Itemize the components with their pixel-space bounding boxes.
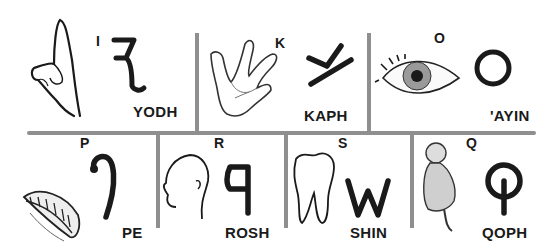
qoph-glyph-icon: [482, 161, 532, 221]
hand-pointing-icon: [28, 16, 88, 116]
letter-cell-yodh: I YODH: [0, 0, 195, 131]
tooth-icon: [290, 151, 340, 231]
letter-name: QOPH: [482, 224, 527, 241]
latin-letter: Q: [466, 135, 477, 151]
letter-cell-pe: P PE: [0, 135, 156, 251]
shin-glyph-icon: [344, 177, 394, 221]
latin-letter: R: [214, 135, 224, 151]
letter-cell-rosh: R ROSH: [160, 135, 284, 251]
letter-name: PE: [122, 224, 143, 241]
rosh-glyph-icon: [222, 163, 262, 223]
letter-cell-kaph: K KAPH: [199, 0, 367, 131]
letter-cell-qoph: Q QOPH: [414, 135, 556, 251]
letter-name: 'AYIN: [490, 107, 530, 124]
latin-letter: I: [96, 33, 100, 49]
latin-letter: P: [80, 135, 89, 151]
letter-name: ROSH: [225, 224, 270, 241]
eye-icon: [375, 52, 465, 107]
ayin-glyph-icon: [473, 48, 517, 92]
letter-name: SHIN: [350, 224, 387, 241]
letter-cell-ayin: O 'AYIN: [371, 0, 556, 131]
mouth-icon: [20, 185, 85, 245]
kaph-glyph-icon: [305, 44, 355, 90]
letter-name: KAPH: [304, 107, 348, 124]
head-icon: [160, 149, 215, 229]
latin-letter: S: [338, 135, 347, 151]
monkey-icon: [416, 139, 466, 229]
letter-name: YODH: [133, 103, 178, 120]
latin-letter: O: [434, 30, 445, 46]
latin-letter: K: [275, 35, 285, 51]
yodh-glyph-icon: [110, 34, 150, 94]
letter-cell-shin: S SHIN: [288, 135, 410, 251]
pe-glyph-icon: [88, 155, 128, 225]
